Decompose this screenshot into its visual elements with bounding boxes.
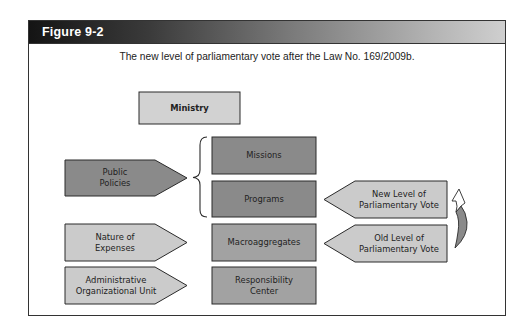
new-level-label: New Level of Parliamentary Vote bbox=[347, 181, 451, 218]
responsibility-center-label: Responsibility Center bbox=[212, 267, 316, 304]
programs-label: Programs bbox=[212, 181, 316, 217]
ministry-label: Ministry bbox=[139, 92, 240, 124]
curved-up-arrow-icon bbox=[452, 189, 467, 248]
macroaggregates-label: Macroaggregates bbox=[212, 224, 316, 261]
missions-label: Missions bbox=[212, 137, 316, 174]
administrative-unit-label: Administrative Organizational Unit bbox=[62, 267, 170, 304]
brace-icon bbox=[193, 137, 207, 217]
public-policies-label: Public Policies bbox=[65, 160, 165, 196]
old-level-label: Old Level of Parliamentary Vote bbox=[347, 225, 451, 262]
nature-of-expenses-label: Nature of Expenses bbox=[65, 224, 165, 261]
